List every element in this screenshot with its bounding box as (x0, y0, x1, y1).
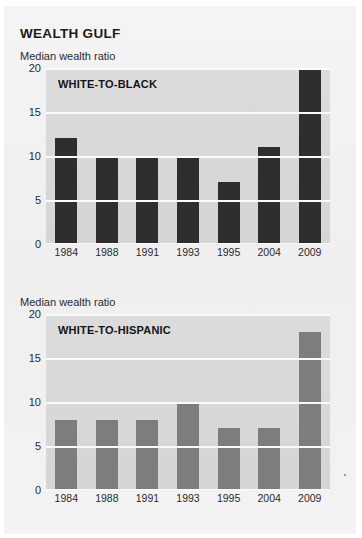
x-tick-label: 2004 (249, 246, 290, 258)
y-tick-label: 15 (29, 106, 41, 118)
x-tick-label: 1988 (87, 492, 128, 504)
bar[interactable] (258, 428, 280, 490)
y-tick-label: 20 (29, 62, 41, 74)
gridline (46, 200, 330, 202)
chart-panel-white-to-hispanic: Median wealth ratio WHITE-TO-HISPANIC 05… (4, 296, 356, 528)
y-tick-label: 0 (35, 238, 41, 250)
gridline (46, 314, 330, 316)
y-axis-title: Median wealth ratio (20, 50, 115, 62)
page-title: WEALTH GULF (20, 26, 121, 41)
x-tick-label: 1993 (168, 246, 209, 258)
gridline (46, 489, 330, 491)
x-tick-label: 1991 (127, 492, 168, 504)
gridline (46, 243, 330, 245)
x-tick-label: 2004 (249, 492, 290, 504)
bar[interactable] (299, 332, 321, 490)
bar[interactable] (55, 138, 77, 244)
plot-area-white-to-hispanic: WHITE-TO-HISPANIC 05101520 (46, 314, 330, 490)
y-tick-label: 20 (29, 308, 41, 320)
figure-page: WEALTH GULF Median wealth ratio WHITE-TO… (4, 6, 356, 534)
y-tick-label: 10 (29, 150, 41, 162)
x-axis-labels: 1984198819911993199520042009 (46, 246, 330, 258)
plot-background: WHITE-TO-HISPANIC (46, 314, 330, 490)
x-tick-label: 1995 (208, 492, 249, 504)
y-tick-label: 5 (35, 440, 41, 452)
bar[interactable] (218, 428, 240, 490)
x-tick-label: 1995 (208, 246, 249, 258)
bar[interactable] (218, 182, 240, 244)
gridline (46, 446, 330, 448)
gridline (46, 358, 330, 360)
x-axis-labels: 1984198819911993199520042009 (46, 492, 330, 504)
x-tick-label: 2009 (289, 246, 330, 258)
gridline (46, 402, 330, 404)
x-tick-label: 2009 (289, 492, 330, 504)
gridline (46, 156, 330, 158)
y-axis-title: Median wealth ratio (20, 296, 115, 308)
y-tick-label: 10 (29, 396, 41, 408)
x-tick-label: 1993 (168, 492, 209, 504)
plot-area-white-to-black: WHITE-TO-BLACK 05101520 (46, 68, 330, 244)
x-tick-label: 1984 (46, 246, 87, 258)
gridline (46, 68, 330, 70)
chart-panel-white-to-black: Median wealth ratio WHITE-TO-BLACK 05101… (4, 50, 356, 282)
y-tick-label: 5 (35, 194, 41, 206)
bar[interactable] (55, 420, 77, 490)
plot-background: WHITE-TO-BLACK (46, 68, 330, 244)
y-tick-label: 0 (35, 484, 41, 496)
page-speck (344, 474, 346, 476)
gridline (46, 112, 330, 114)
bar[interactable] (96, 420, 118, 490)
bar[interactable] (258, 147, 280, 244)
x-tick-label: 1984 (46, 492, 87, 504)
bar[interactable] (136, 420, 158, 490)
x-tick-label: 1988 (87, 246, 128, 258)
x-tick-label: 1991 (127, 246, 168, 258)
y-tick-label: 15 (29, 352, 41, 364)
